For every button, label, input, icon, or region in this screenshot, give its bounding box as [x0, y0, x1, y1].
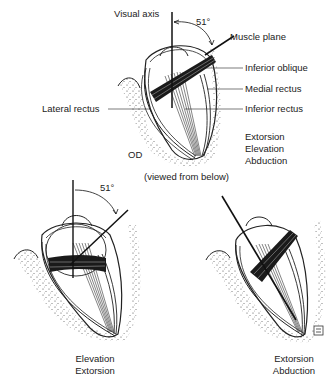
diagram-artwork [0, 0, 336, 384]
bottom-right-eye-illustration [206, 196, 325, 342]
inferior-rectus-label: Inferior rectus [245, 103, 303, 115]
top-actions-list: Extorsion Elevation Abduction [245, 131, 287, 167]
visual-axis-label: Visual axis [114, 8, 159, 20]
top-eye-illustration [108, 12, 243, 166]
action-item: Extorsion [68, 365, 122, 377]
action-item: Extorsion [266, 353, 322, 365]
lateral-rectus-label: Lateral rectus [42, 103, 100, 115]
action-item: Extorsion [245, 131, 287, 143]
eye-od-label: OD [128, 149, 142, 161]
bottom-right-actions-list: Extorsion Abduction [266, 353, 322, 377]
muscle-plane-label: Muscle plane [230, 31, 286, 43]
bottom-left-angle-label: 51° [100, 182, 114, 194]
action-item: Elevation [68, 353, 122, 365]
action-item: Elevation [245, 143, 287, 155]
inferior-oblique-label: Inferior oblique [245, 62, 308, 74]
bottom-left-eye-illustration [14, 180, 141, 341]
action-item: Abduction [245, 155, 287, 167]
bottom-left-actions-list: Elevation Extorsion [68, 353, 122, 377]
view-note-label: (viewed from below) [144, 171, 229, 183]
action-item: Abduction [266, 365, 322, 377]
medial-rectus-label: Medial rectus [245, 83, 302, 95]
top-angle-label: 51° [196, 16, 210, 28]
